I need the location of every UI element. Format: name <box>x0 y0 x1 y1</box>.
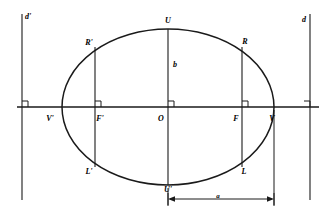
label-focus-right: F <box>233 115 238 123</box>
label-vertex-top: U <box>165 17 171 25</box>
label-semi-minor: b <box>173 61 177 69</box>
label-focus-left: F' <box>96 115 104 123</box>
right-angle-marker-center <box>168 101 174 107</box>
right-angle-marker-directrix-right <box>304 101 310 107</box>
right-angle-marker-directrix-left <box>22 101 28 107</box>
label-directrix-left: d' <box>25 13 31 21</box>
right-angle-marker-focus-right <box>242 101 248 107</box>
label-center: O <box>158 115 164 123</box>
label-vertex-bottom: U' <box>164 186 172 194</box>
dimension-arrow-left <box>168 196 175 201</box>
label-latus-left-top: R' <box>85 39 93 47</box>
label-semi-major-dimension: a <box>216 192 220 200</box>
dimension-arrow-right <box>267 196 274 201</box>
ellipse-figure: d' d U U' V' V F' F O R L R' L' b a <box>0 0 336 217</box>
label-vertex-right: V <box>269 115 274 123</box>
label-directrix-right: d <box>302 16 306 24</box>
right-angle-marker-focus-left <box>95 101 101 107</box>
label-latus-left-bottom: L' <box>85 168 92 176</box>
label-latus-right-top: R <box>242 38 247 46</box>
label-vertex-left: V' <box>46 115 54 123</box>
label-latus-right-bottom: L <box>242 168 247 176</box>
